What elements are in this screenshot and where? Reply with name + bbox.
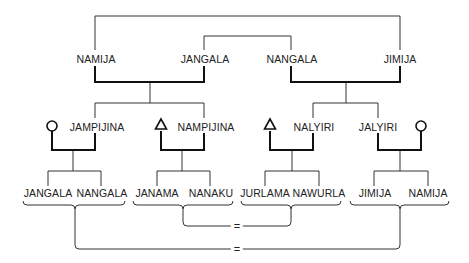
label-g3-janama: JANAMA bbox=[134, 187, 179, 199]
label-g3-namija: NAMIJA bbox=[407, 187, 448, 199]
label-g3-jurlama: JURLAMA bbox=[239, 187, 291, 199]
marriage-line-left bbox=[95, 66, 204, 82]
label-g2-jampijina: JAMPIJINA bbox=[69, 121, 126, 133]
label-g3-nanaku: NANAKU bbox=[188, 187, 234, 199]
label-g3-jangala: JANGALA bbox=[23, 187, 74, 199]
male-symbol-icon bbox=[265, 119, 276, 129]
brace-group-3 bbox=[241, 201, 341, 209]
label-g1-jangala: JANGALA bbox=[180, 53, 231, 65]
label-g2-jalyiri: JALYIRI bbox=[358, 121, 398, 133]
label-g1-namija: NAMIJA bbox=[75, 53, 116, 65]
link-jangala-nangala bbox=[204, 36, 291, 50]
female-symbol-icon bbox=[47, 121, 57, 131]
female-symbol-icon bbox=[416, 121, 426, 131]
brace-group-1 bbox=[23, 201, 125, 209]
brace-group-4 bbox=[350, 201, 449, 209]
label-g3-nawurla: NAWURLA bbox=[292, 187, 347, 199]
label-g2-nalyiri: NALYIRI bbox=[293, 121, 336, 133]
label-g3-jimija: JIMIJA bbox=[358, 187, 393, 199]
link-namija-jimija bbox=[95, 16, 400, 50]
label-g1-nangala: NANGALA bbox=[266, 53, 319, 65]
equivalence-symbol-inner: = bbox=[231, 220, 243, 232]
label-g1-jimija: JIMIJA bbox=[383, 53, 418, 65]
marriage-line-right bbox=[291, 66, 400, 82]
male-symbol-icon bbox=[156, 119, 167, 129]
brace-group-2 bbox=[133, 201, 233, 209]
equivalence-symbol-outer: = bbox=[231, 243, 243, 255]
label-g3-nangala: NANGALA bbox=[76, 187, 129, 199]
label-g2-nampijina: NAMPIJINA bbox=[177, 121, 236, 133]
